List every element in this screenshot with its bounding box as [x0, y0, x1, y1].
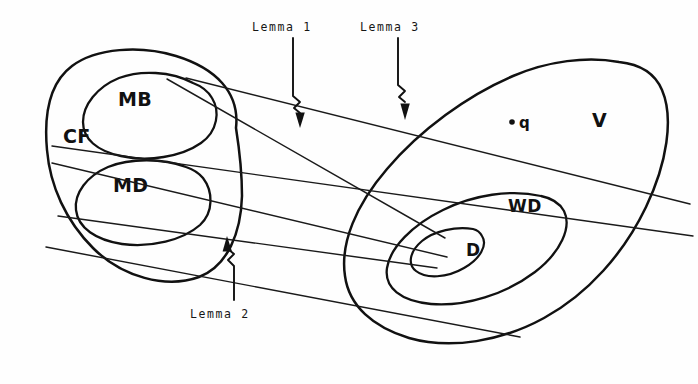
lemma-2-caption: Lemma 2 [190, 307, 250, 321]
lemma-1-arrow-shaft [293, 38, 300, 113]
lemma-3-caption: Lemma 3 [360, 20, 420, 34]
connector-line-1 [186, 78, 690, 204]
marked-point-q: q [509, 114, 530, 132]
point-dot-icon [509, 119, 515, 125]
lemma-3-arrow [398, 38, 410, 120]
region-v [344, 60, 668, 344]
set-diagram-svg: CF MB MD V WD D q [0, 0, 698, 384]
point-q-label: q [519, 114, 530, 132]
diagram-canvas: CF MB MD V WD D q [0, 0, 698, 384]
cf-label: CF [63, 125, 91, 147]
lemma-1-arrow [293, 38, 305, 128]
connector-line-6 [46, 247, 520, 337]
lemma-1-arrowhead-icon [295, 113, 304, 129]
v-label: V [592, 109, 607, 131]
region-mb [83, 73, 217, 159]
mb-outline [83, 73, 217, 159]
lemma-1-caption: Lemma 1 [252, 20, 312, 34]
lemma-3-arrowhead-icon [400, 104, 409, 121]
v-outline [344, 60, 668, 344]
lemma-2-arrow-shaft [228, 249, 234, 300]
mb-label: MB [118, 88, 152, 110]
d-label: D [466, 240, 481, 260]
lemma-3-arrow-shaft [398, 38, 405, 102]
